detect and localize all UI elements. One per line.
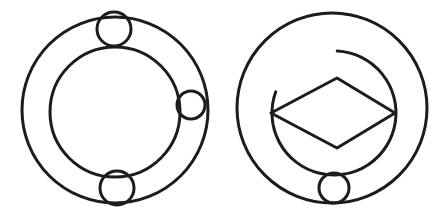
- figure-canvas: [0, 0, 447, 222]
